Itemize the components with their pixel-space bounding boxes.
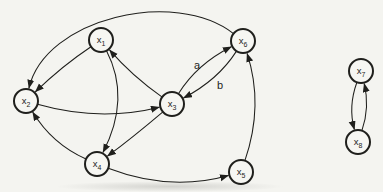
edge-label-b: b [217,79,223,91]
diagram-background [0,0,383,192]
edge-label-a: a [194,59,201,71]
graph-diagram: x1x2x3x4x5x6x7x8 ab [0,0,383,192]
directed-graph-svg: x1x2x3x4x5x6x7x8 ab [0,0,383,192]
